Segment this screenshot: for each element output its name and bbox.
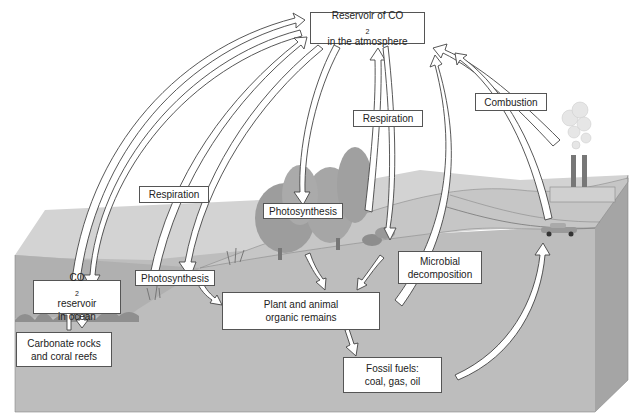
label-text: Respiration <box>149 188 200 201</box>
label-text: decomposition <box>408 268 472 281</box>
smokestack <box>582 155 587 187</box>
photosynthesis-land-label: Photosynthesis <box>263 203 343 219</box>
ocean-reservoir-label: CO2 reservoir in ocean <box>33 280 121 314</box>
label-text: Plant and animal <box>264 298 339 311</box>
label-text: in the atmosphere <box>327 35 407 48</box>
label-text: Reservoir of CO <box>332 9 404 22</box>
organic-remains-label: Plant and animal organic remains <box>222 292 380 330</box>
label-text: and coral reefs <box>31 350 97 363</box>
label-text: coal, gas, oil <box>365 375 421 388</box>
label-text: in ocean <box>58 310 96 323</box>
tree-trunk <box>336 238 340 250</box>
label-text: Photosynthesis <box>269 205 337 218</box>
label-text: reservoir <box>58 297 97 310</box>
microbial-decomposition-label: Microbial decomposition <box>398 251 482 284</box>
label-text: organic remains <box>265 311 336 324</box>
factory-building <box>550 187 615 202</box>
label-text: Fossil fuels: <box>366 362 419 375</box>
subscript: 2 <box>366 28 370 35</box>
atmosphere-reservoir-label: Reservoir of CO2 in the atmosphere <box>310 12 425 44</box>
carbonate-rocks-label: Carbonate rocks and coral reefs <box>16 332 112 367</box>
fossil-fuels-label: Fossil fuels: coal, gas, oil <box>343 357 442 393</box>
label-text: Photosynthesis <box>141 272 209 285</box>
label-text: Carbonate rocks <box>27 337 100 350</box>
label-text: Combustion <box>484 96 537 109</box>
subscript: 2 <box>75 290 79 297</box>
factory <box>550 102 615 202</box>
respiration-right-label: Respiration <box>353 110 423 127</box>
tree-trunk <box>278 248 282 260</box>
smoke-icon <box>562 102 591 149</box>
photosynthesis-ocean-label: Photosynthesis <box>135 270 215 286</box>
label-text: CO <box>58 271 97 284</box>
label-text: Microbial <box>420 255 460 268</box>
label-text: Respiration <box>363 112 414 125</box>
smokestack <box>571 155 576 187</box>
combustion-label: Combustion <box>475 93 547 111</box>
respiration-left-label: Respiration <box>139 186 209 203</box>
